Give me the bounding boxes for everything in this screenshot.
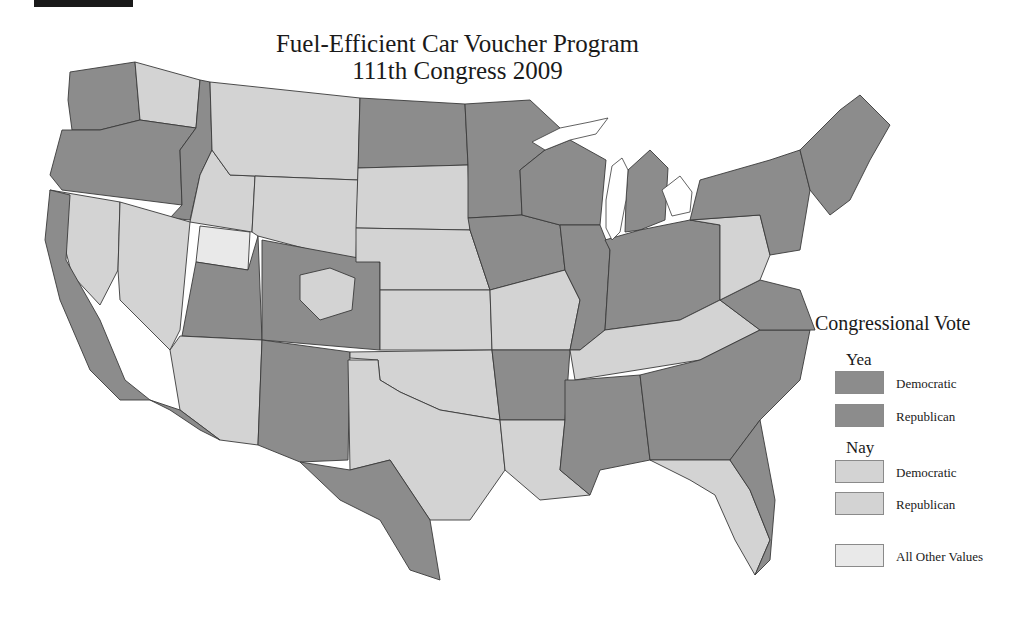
region-arizona <box>170 336 262 445</box>
legend-label-yea-republican: Republican <box>896 409 955 425</box>
region-kansas <box>380 290 492 350</box>
region-new-england <box>800 95 890 215</box>
legend-title: Congressional Vote <box>815 312 970 335</box>
legend-swatch-yea-democratic <box>835 371 884 394</box>
legend-swatch-yea-republican <box>835 404 884 427</box>
legend-label-yea-democratic: Democratic <box>896 376 957 392</box>
region-new-mexico <box>258 340 350 462</box>
us-district-map <box>0 0 1030 620</box>
region-oregon <box>50 120 196 205</box>
region-south-dakota <box>356 165 470 230</box>
region-washington-west <box>68 62 140 130</box>
region-mississippi-alabama <box>560 375 650 495</box>
region-north-dakota <box>358 98 468 168</box>
legend-swatch-nay-democratic <box>835 460 884 483</box>
legend-swatch-other <box>835 544 884 567</box>
region-montana <box>210 82 360 180</box>
legend-label-other: All Other Values <box>896 549 983 565</box>
legend-heading-nay: Nay <box>846 438 874 458</box>
legend-swatch-nay-republican <box>835 492 884 515</box>
legend-heading-yea: Yea <box>846 350 872 370</box>
region-washington-east <box>135 62 200 128</box>
region-michigan <box>625 150 668 232</box>
region-arkansas <box>492 350 570 420</box>
legend-label-nay-republican: Republican <box>896 497 955 513</box>
region-nevada <box>118 202 190 350</box>
legend-label-nay-democratic: Democratic <box>896 465 957 481</box>
